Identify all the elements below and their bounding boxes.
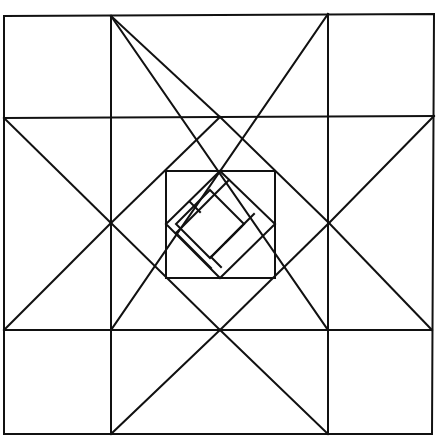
diagonal-left-bottom xyxy=(4,223,111,330)
diagonal-bottom-arm-left xyxy=(111,330,220,434)
diagonal-bottom-arm-right xyxy=(220,330,328,434)
diagonal-top-arm-left xyxy=(111,16,220,117)
diagonal-right-bottom xyxy=(329,223,432,330)
diagonal-right-top xyxy=(329,116,434,223)
outer-square xyxy=(4,14,434,434)
band-line-lower xyxy=(211,257,221,267)
star-diagonals xyxy=(4,14,434,434)
quilt-block-diagram xyxy=(0,0,436,436)
grid-lines xyxy=(4,14,434,434)
diagonal-left-top xyxy=(4,118,111,223)
quilt-pattern-svg xyxy=(0,0,436,436)
band-line-left xyxy=(176,233,211,268)
band-line-right-inner xyxy=(226,227,241,242)
